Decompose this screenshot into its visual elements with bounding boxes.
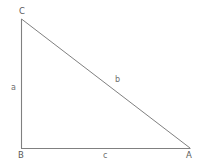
vertex-label-b: B bbox=[18, 151, 24, 160]
triangle-figure: C B A a b c bbox=[0, 0, 205, 166]
side-label-c: c bbox=[103, 151, 107, 160]
vertex-label-c: C bbox=[19, 7, 25, 16]
triangle-drawing bbox=[0, 0, 205, 166]
side-b-line bbox=[22, 19, 191, 148]
vertex-label-a: A bbox=[186, 151, 192, 160]
side-label-a: a bbox=[11, 83, 16, 92]
side-label-b: b bbox=[115, 75, 120, 84]
